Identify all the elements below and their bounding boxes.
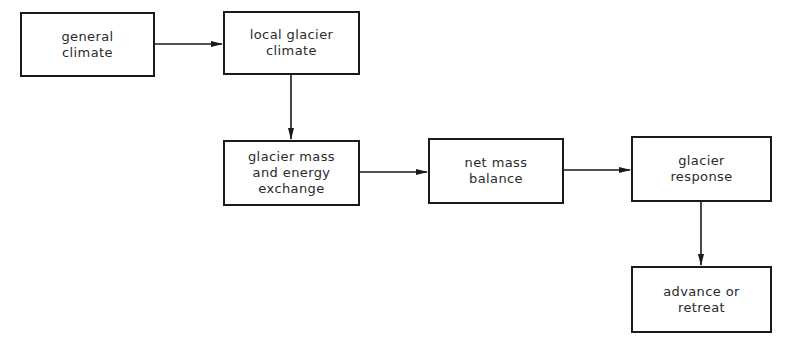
node-label: advance or retreat: [663, 284, 740, 316]
node-label: general climate: [61, 29, 113, 61]
node-label: local glacier climate: [250, 27, 334, 59]
node-advance-or-retreat: advance or retreat: [631, 266, 772, 333]
node-label: glacier response: [670, 153, 732, 185]
node-glacier-response: glacier response: [631, 136, 772, 202]
node-net-mass-balance: net mass balance: [428, 138, 564, 204]
node-local-glacier-climate: local glacier climate: [223, 11, 360, 75]
node-general-climate: general climate: [20, 12, 155, 77]
node-glacier-mass-energy-exchange: glacier mass and energy exchange: [223, 140, 360, 206]
node-label: glacier mass and energy exchange: [248, 149, 335, 197]
node-label: net mass balance: [465, 155, 528, 187]
